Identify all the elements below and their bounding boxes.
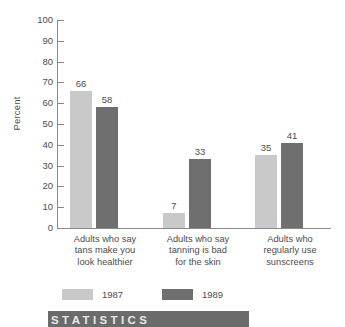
category-label-line: look healthier — [57, 257, 153, 268]
bar-1987-group-2 — [163, 213, 185, 228]
legend-label: 1989 — [202, 289, 223, 300]
y-axis-tick-label: 40 — [23, 139, 53, 150]
y-axis-tick — [58, 228, 64, 229]
bar-1989-group-2 — [189, 159, 211, 228]
category-label-line: Adults who — [242, 234, 338, 245]
y-axis-tick — [58, 103, 64, 104]
bar-chart: Percent 1009080706050403020100 665873335… — [0, 0, 345, 327]
y-axis-tick-label: 70 — [23, 76, 53, 87]
legend-label: 1987 — [102, 289, 123, 300]
category-label-1: Adults who saytans make youlook healthie… — [57, 234, 153, 268]
x-axis-line — [57, 228, 331, 229]
y-axis-tick-label: 0 — [23, 222, 53, 233]
category-label-line: Adults who say — [150, 234, 246, 245]
category-label-line: sunscreens — [242, 257, 338, 268]
y-axis-tick-label: 60 — [23, 97, 53, 108]
y-axis-tick-label: 30 — [23, 160, 53, 171]
bar-1987-group-1 — [70, 91, 92, 228]
category-label-2: Adults who saytanning is badfor the skin — [150, 234, 246, 268]
bar-value-label: 58 — [90, 94, 124, 105]
legend-item-1987[interactable]: 1987 — [62, 287, 123, 301]
category-label-3: Adults whoregularly usesunscreens — [242, 234, 338, 268]
category-label-line: regularly use — [242, 245, 338, 256]
y-axis-tick — [58, 145, 64, 146]
category-label-line: for the skin — [150, 257, 246, 268]
y-axis-tick-label: 80 — [23, 56, 53, 67]
category-label-line: tans make you — [57, 245, 153, 256]
y-axis-tick — [58, 124, 64, 125]
bottom-banner-text: STATISTICS — [51, 314, 150, 326]
bar-value-label: 33 — [183, 146, 217, 157]
legend-item-1989[interactable]: 1989 — [162, 287, 223, 301]
bar-1987-group-3 — [255, 155, 277, 228]
y-axis-tick — [58, 186, 64, 187]
y-axis-tick — [58, 207, 64, 208]
y-axis-tick-label: 20 — [23, 180, 53, 191]
bar-1989-group-3 — [281, 143, 303, 228]
y-axis-tick-label: 100 — [23, 14, 53, 25]
bar-1989-group-1 — [96, 107, 118, 228]
y-axis-tick-label: 10 — [23, 201, 53, 212]
y-axis-tick — [58, 41, 64, 42]
bottom-banner: STATISTICS — [48, 311, 249, 327]
legend-swatch-icon — [62, 289, 93, 300]
legend-swatch-icon — [162, 289, 193, 300]
bar-value-label: 66 — [64, 78, 98, 89]
category-label-line: tanning is bad — [150, 245, 246, 256]
chart-legend: 19871989 — [0, 287, 345, 303]
y-axis-tick — [58, 20, 64, 21]
bar-value-label: 41 — [275, 130, 309, 141]
y-axis-tick — [58, 62, 64, 63]
y-axis-title: Percent — [11, 84, 22, 144]
y-axis-tick — [58, 166, 64, 167]
category-label-line: Adults who say — [57, 234, 153, 245]
y-axis-tick-label: 90 — [23, 35, 53, 46]
y-axis-tick-label: 50 — [23, 118, 53, 129]
bar-value-label: 7 — [157, 200, 191, 211]
bar-value-label: 35 — [249, 142, 283, 153]
